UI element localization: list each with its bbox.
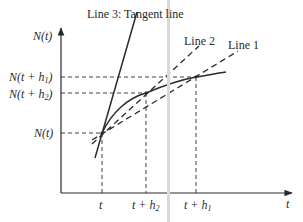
line-3-tangent [95,12,137,158]
x-axis-label: t [286,198,289,210]
curve-n-t [102,72,226,133]
point-n-t [100,131,103,134]
x-tick-t: t [99,199,102,211]
line-1-label: Line 1 [228,39,259,51]
line-1-secant [92,51,238,140]
y-tick-n-t-h1: N(t + h1) [9,71,52,85]
x-tick-t-h1: t + h1 [184,199,211,213]
y-axis-label: N(t) [33,30,52,42]
line-3-label: Line 3: Tangent line [87,8,184,20]
diagram-canvas: N(t) t N(t + h1) N(t + h2) N(t) t t + h2… [0,0,303,222]
scan-stripe [167,0,170,222]
y-tick-n-t-h2: N(t + h2) [9,88,52,102]
line-2-label: Line 2 [184,35,215,47]
point-n-t-h1 [195,76,198,79]
line-2-secant [92,46,199,144]
y-tick-n-t: N(t) [34,127,53,139]
point-n-t-h2 [145,92,148,95]
x-tick-t-h2: t + h2 [132,199,159,213]
